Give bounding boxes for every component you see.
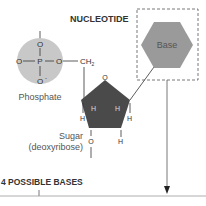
svg-text:O: O xyxy=(88,138,94,145)
svg-text:P: P xyxy=(37,57,42,66)
svg-text:O: O xyxy=(16,57,22,66)
svg-text:O: O xyxy=(56,57,62,66)
arrow-down-icon xyxy=(164,186,170,194)
phosphate-label: Phosphate xyxy=(18,92,61,102)
base-label: Base xyxy=(157,40,178,50)
phosphate-group: O P O O O - Phosphate xyxy=(16,31,78,102)
sugar-sublabel: (deoxyribose) xyxy=(28,142,83,152)
svg-text:-: - xyxy=(45,75,47,81)
sugar-label: Sugar xyxy=(59,131,83,141)
svg-text:H: H xyxy=(127,115,132,122)
svg-text:H: H xyxy=(80,115,85,122)
svg-text:H: H xyxy=(91,105,96,112)
svg-text:O: O xyxy=(37,77,43,86)
svg-text:H: H xyxy=(115,105,120,112)
base-group: Base xyxy=(137,9,198,80)
sugar-ring: O H H H H H O Sugar (deoxyribose) xyxy=(28,74,132,158)
svg-text:O: O xyxy=(37,40,43,49)
sugar-pentagon xyxy=(81,80,130,128)
footer-label: 4 POSSIBLE BASES xyxy=(1,177,83,187)
nucleotide-diagram: NUCLEOTIDE O P O O O - Phosphate CH2 O H… xyxy=(0,0,206,206)
ch2-label: CH2 xyxy=(80,57,95,67)
diagram-title: NUCLEOTIDE xyxy=(70,14,129,24)
svg-text:H: H xyxy=(118,138,123,145)
svg-text:O: O xyxy=(102,74,108,81)
